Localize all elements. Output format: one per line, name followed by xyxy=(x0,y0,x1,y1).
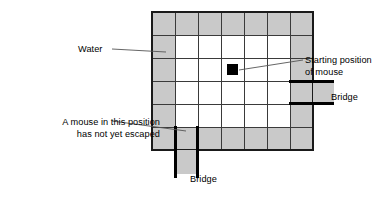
label-water-text: Water xyxy=(78,44,102,54)
label-starting-position: Starting position of mouse xyxy=(305,55,372,78)
diagram-canvas xyxy=(0,0,388,199)
label-not-escaped: A mouse in this position has not yet esc… xyxy=(8,117,160,140)
label-not-escaped-line2: has not yet escaped xyxy=(8,129,160,141)
label-bridge-bottom: Bridge xyxy=(190,174,217,186)
label-not-escaped-line1: A mouse in this position xyxy=(8,117,160,129)
bridge-bottom-deck xyxy=(175,150,198,174)
label-starting-position-line2: of mouse xyxy=(305,67,372,79)
maze-svg xyxy=(0,0,388,199)
label-starting-position-line1: Starting position xyxy=(305,55,372,67)
mouse-start-marker xyxy=(227,64,238,75)
label-bridge-right: Bridge xyxy=(331,92,358,104)
label-water: Water xyxy=(78,44,102,56)
water-cell xyxy=(152,12,313,35)
label-bridge-bottom-text: Bridge xyxy=(190,174,217,184)
label-bridge-right-text: Bridge xyxy=(331,92,358,102)
